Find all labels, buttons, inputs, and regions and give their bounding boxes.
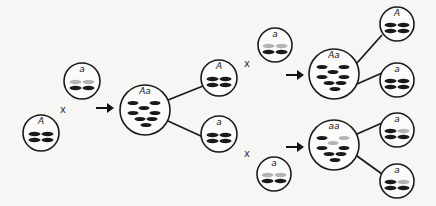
cell-gamete-a-mid: a [201,116,237,152]
chromosome-icon [276,44,288,48]
chromosome-icon [317,136,328,140]
chromosome-icon [330,87,341,91]
chromosome-icon [83,80,95,84]
chromosome-icon [336,152,347,156]
chromosome-icon [385,180,397,184]
genotype-label: a [394,165,400,175]
chromosome-icon [385,129,397,133]
chromosome-icon [139,106,150,110]
chromosome-icon [29,138,41,142]
cell-zygote-aa: aa [309,120,359,170]
arrow-right-icon [96,103,114,113]
genotype-label: a [272,29,278,39]
chromosome-icon [398,79,410,83]
cell-gamete-a-upper-right: a [380,63,414,97]
cell-parent-a-left: a [64,63,100,99]
cell-zygote-Aa-left: Aa [120,85,170,135]
chromosome-icon [29,132,41,136]
chromosome-icon [385,23,397,27]
chromosome-icon [398,23,410,27]
genotype-label: A [215,61,222,71]
chromosome-icon [385,79,397,83]
chromosome-icon [70,80,82,84]
chromosome-icon [263,44,275,48]
genotype-label: aa [328,121,339,131]
chromosome-icon [220,77,232,81]
chromosome-icon [150,111,161,115]
genotype-label: a [271,158,277,168]
cell-parent-A-left: A [23,115,59,151]
genotype-label: Aa [327,50,340,60]
chromosome-icon [220,139,232,143]
cell-gamete-A-top-right: A [380,7,414,41]
chromosome-icon [398,29,410,33]
genotype-label: a [216,117,222,127]
connector-line [357,123,382,134]
arrow-right-icon [286,70,304,80]
genotype-label: a [394,114,400,124]
chromosome-icon [207,133,219,137]
chromosome-icon [141,123,152,127]
chromosome-icon [398,135,410,139]
cell-gamete-a-lower-right-1: a [380,113,414,147]
cells: AaAaAaaAaAaaaaaa [23,7,414,198]
chromosome-icon [220,83,232,87]
chromosome-icon [262,173,274,177]
genotype-label: a [79,64,85,74]
chromosome-icon [339,75,350,79]
chromosome-icon [262,179,274,183]
genotype-label: a [394,64,400,74]
chromosome-icon [398,180,410,184]
chromosome-icon [336,81,347,85]
chromosome-icon [263,50,275,54]
chromosome-icon [398,186,410,190]
chromosome-icon [324,81,335,85]
chromosome-icon [328,141,339,145]
chromosome-icon [317,75,328,79]
connector-line [357,73,382,84]
chromosome-icon [328,70,339,74]
chromosome-icon [275,179,287,183]
chromosome-icon [147,117,158,121]
connector-line [168,86,203,100]
chromosome-icon [317,65,328,69]
cross-symbol: x [60,104,66,115]
genetics-cross-diagram: xxx AaAaAaaAaAaaaaaa [0,0,436,206]
cell-zygote-Aa-right: Aa [309,49,359,99]
chromosome-icon [128,111,139,115]
connector-line [357,156,382,174]
chromosome-icon [220,133,232,137]
cell-gamete-a-lower-right-2: a [380,164,414,198]
connector-line [357,35,382,63]
chromosome-icon [150,101,161,105]
chromosome-icon [42,132,54,136]
chromosome-icon [330,158,341,162]
chromosome-icon [70,86,82,90]
genotype-label: A [37,116,44,126]
chromosome-icon [339,136,350,140]
chromosome-icon [385,135,397,139]
genotype-label: A [393,8,400,18]
cross-symbol: x [244,58,250,69]
chromosome-icon [207,83,219,87]
chromosome-icon [398,85,410,89]
chromosome-icon [385,85,397,89]
connector-line [168,121,203,137]
chromosome-icon [207,77,219,81]
chromosome-icon [135,117,146,121]
cell-parent-a-upper: a [258,28,292,62]
cell-parent-a-lower: a [257,157,291,191]
chromosome-icon [42,138,54,142]
chromosome-icon [128,101,139,105]
chromosome-icon [385,29,397,33]
chromosome-icon [339,146,350,150]
chromosome-icon [276,50,288,54]
chromosome-icon [339,65,350,69]
chromosome-icon [398,129,410,133]
arrow-right-icon [286,142,304,152]
chromosome-icon [207,139,219,143]
cross-symbol: x [244,148,250,159]
cell-gamete-A-mid: A [201,60,237,96]
chromosome-icon [385,186,397,190]
chromosome-icon [275,173,287,177]
